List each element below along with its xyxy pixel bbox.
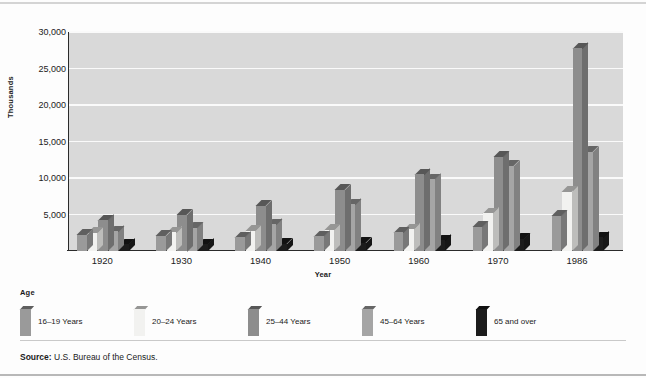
bar-side-face: [593, 146, 599, 251]
bar-front-face: [77, 235, 87, 251]
bar: [314, 236, 324, 251]
bar-front-face: [235, 237, 245, 251]
x-tick-label: 1940: [250, 255, 271, 266]
legend-swatch: [362, 306, 373, 336]
legend-swatch-face: [248, 309, 259, 336]
y-tick-label: 20,000: [14, 100, 66, 110]
chart-figure: Thousands 5,00010,00015,00020,00025,0003…: [0, 0, 646, 378]
bar-side-face: [561, 210, 567, 251]
legend-swatch: [476, 306, 487, 336]
legend-item[interactable]: 25–44 Years: [248, 306, 311, 336]
y-axis-tick-labels: 5,00010,00015,00020,00025,00030,000: [14, 26, 66, 256]
x-tick-label: 1930: [171, 255, 192, 266]
source-note: Source: U.S. Bureau of the Census.: [20, 352, 158, 362]
bar-side-face: [355, 199, 361, 251]
legend-swatch: [20, 306, 31, 336]
legend-swatch-face: [362, 309, 373, 336]
x-tick-label: 1986: [567, 255, 588, 266]
bar-front-face: [394, 232, 404, 251]
bar: [552, 216, 562, 251]
bottom-divider: [0, 374, 646, 376]
source-divider: [20, 340, 626, 341]
bar-group: [148, 32, 227, 251]
legend-swatch-face: [20, 309, 31, 336]
bar-side-face: [582, 43, 588, 251]
x-axis-title: Year: [0, 270, 646, 279]
bar-side-face: [345, 184, 351, 251]
legend-items: 16–19 Years20–24 Years25–44 Years45–64 Y…: [20, 306, 626, 340]
bar-group: [69, 32, 148, 251]
y-tick-label: 25,000: [14, 64, 66, 74]
source-text: U.S. Bureau of the Census.: [54, 352, 157, 362]
x-tick-label: 1970: [487, 255, 508, 266]
legend-item[interactable]: 16–19 Years: [20, 306, 83, 336]
legend-swatch-face: [476, 309, 487, 336]
bar-side-face: [572, 186, 578, 251]
legend-item[interactable]: 65 and over: [476, 306, 536, 336]
bar-side-face: [424, 169, 430, 251]
bar-side-face: [493, 208, 499, 251]
bar-front-face: [314, 236, 324, 251]
bar-group: [465, 32, 544, 251]
legend-title: Age: [20, 288, 626, 297]
bar-side-face: [435, 174, 441, 251]
bar-side-face: [187, 209, 193, 251]
bar: [77, 235, 87, 251]
y-tick-label: 30,000: [14, 27, 66, 37]
bar-side-face: [503, 151, 509, 251]
y-tick-label: 15,000: [14, 137, 66, 147]
bar-group: [306, 32, 385, 251]
bar: [394, 232, 404, 251]
bar-side-face: [514, 160, 520, 251]
legend-swatch-face: [134, 309, 145, 336]
source-prefix: Source:: [20, 352, 52, 362]
legend-swatch: [134, 306, 145, 336]
legend-label: 65 and over: [494, 317, 536, 326]
bar: [156, 236, 166, 251]
x-tick-label: 1920: [92, 255, 113, 266]
legend-item[interactable]: 45–64 Years: [362, 306, 425, 336]
bar-group: [386, 32, 465, 251]
bar-front-face: [156, 236, 166, 251]
y-tick-label: 5,000: [14, 210, 66, 220]
legend-label: 25–44 Years: [266, 317, 311, 326]
legend-label: 20–24 Years: [152, 317, 197, 326]
bar-front-face: [552, 216, 562, 251]
legend: Age 16–19 Years20–24 Years25–44 Years45–…: [20, 288, 626, 340]
bar-group: [227, 32, 306, 251]
legend-label: 45–64 Years: [380, 317, 425, 326]
legend-swatch: [248, 306, 259, 336]
x-tick-label: 1960: [408, 255, 429, 266]
bar-side-face: [108, 215, 114, 251]
plot-wrapper: Thousands 5,00010,00015,00020,00025,0003…: [0, 0, 646, 258]
plot-area: [68, 32, 623, 251]
x-tick-label: 1950: [329, 255, 350, 266]
bar-front-face: [473, 227, 483, 251]
legend-item[interactable]: 20–24 Years: [134, 306, 197, 336]
bar: [235, 237, 245, 251]
bar-side-face: [266, 200, 272, 251]
bar: [473, 227, 483, 251]
bar-group: [544, 32, 623, 251]
legend-label: 16–19 Years: [38, 317, 83, 326]
y-tick-label: 10,000: [14, 173, 66, 183]
